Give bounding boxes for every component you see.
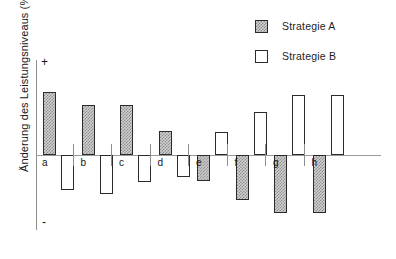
category-label-a: a <box>42 157 48 169</box>
category-label-f: f <box>235 157 238 169</box>
category-label-b: b <box>81 157 87 169</box>
group-separator-tick <box>304 144 305 166</box>
plot-area: abcdefgh <box>36 60 384 230</box>
category-label-c: c <box>119 157 124 169</box>
category-label-d: d <box>158 157 164 169</box>
bar-d-strategie-a <box>159 131 172 155</box>
legend-swatch-hatched-square-icon <box>255 20 268 33</box>
y-axis-title: Änderung des Leistungsniveaus (%) <box>18 0 30 172</box>
group-separator-tick <box>265 144 266 166</box>
group-separator-tick <box>73 144 74 166</box>
category-label-e: e <box>196 157 202 169</box>
group-separator-tick <box>150 144 151 166</box>
legend-item-strategie-a: Strategie A <box>255 15 390 37</box>
bar-h-strategie-b <box>331 95 344 155</box>
category-label-h: h <box>312 157 318 169</box>
bar-f-strategie-a <box>236 155 249 200</box>
group-separator-tick <box>227 144 228 166</box>
bar-a-strategie-a <box>43 92 56 155</box>
legend-label-strategie-a: Strategie A <box>282 20 336 32</box>
group-separator-tick <box>111 144 112 166</box>
bar-b-strategie-a <box>82 105 95 155</box>
chart-figure: Strategie A Strategie B Änderung des Lei… <box>0 0 396 259</box>
group-separator-tick <box>188 144 189 166</box>
category-label-g: g <box>273 157 279 169</box>
bar-c-strategie-a <box>120 105 133 155</box>
